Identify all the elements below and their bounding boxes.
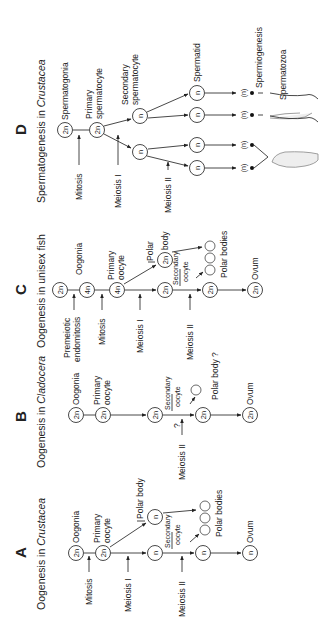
spermatid-n: (n) [240, 89, 248, 98]
ploidy-label: n [136, 114, 145, 118]
panel-title-a: Oogenesis in Crustacea [35, 498, 47, 610]
ploidy-label: 2n [199, 411, 208, 419]
arrow [148, 145, 188, 149]
process-meiosis-1: Meiosis I [113, 174, 123, 208]
ploidy-label: 2n [161, 256, 170, 264]
label-spermatid: Spermatid [192, 43, 202, 82]
process-premeiotic: Premeiotic [62, 317, 72, 358]
label-primary: Primary [92, 375, 102, 405]
ploidy-label: n [136, 150, 145, 154]
label-polar-bodies: Polar bodies [219, 231, 229, 278]
process-meiosis-1: Meiosis I [135, 319, 145, 353]
label-spermatocyte: spermatocyte [94, 68, 104, 119]
polar-body-1 [200, 525, 210, 535]
panel-title-b: Oogenesis in Cladocera [35, 356, 47, 468]
spermatid-n: (n) [240, 141, 248, 150]
arrow [196, 272, 203, 278]
panel-letter-b: B [12, 411, 29, 422]
ploidy-label: 2n [72, 549, 81, 557]
process-meiosis-2: Meiosis II [177, 444, 187, 480]
sperm-dot [250, 143, 254, 147]
arrow [172, 247, 202, 252]
label-oocyte: oocyte [174, 524, 182, 545]
panel-b: B Oogenesis in Cladocera 2n Oogonia 2n P… [12, 352, 258, 480]
panel-letter-a: A [12, 547, 29, 558]
label-spermatocyte: spermatocyte [130, 54, 140, 105]
polar-body-1 [205, 265, 215, 275]
arrow [124, 265, 156, 284]
arrow [147, 94, 188, 112]
label-oocyte: oocyte [116, 255, 126, 280]
ploidy-label: n [199, 551, 208, 555]
spermatozoon-icon [272, 152, 318, 168]
ploidy-label: n [193, 143, 202, 147]
label-oocyte: oocyte [102, 380, 112, 405]
sperm-dot [250, 91, 254, 95]
label-polar: Polar [145, 241, 155, 261]
panel-title-d: Spermatogenesis in Crustacea [35, 59, 47, 203]
ploidy-label: 2n [151, 411, 160, 419]
ploidy-label: 2n [251, 286, 260, 294]
sperm-dot [250, 113, 254, 117]
process-meiosis-2: Meiosis II [177, 581, 187, 617]
process-endomitosis: endomitosis [72, 317, 82, 362]
label-question: ? [172, 423, 182, 428]
arrow [147, 156, 188, 166]
ploidy-label: n [246, 551, 255, 555]
panel-letter-c: C [12, 284, 29, 295]
ploidy-label: n [151, 551, 160, 555]
process-meiosis-2: Meiosis II [163, 177, 173, 213]
polar-body [191, 385, 201, 395]
arrow [104, 119, 131, 126]
process-mitosis: Mitosis [74, 174, 84, 200]
ploidy-label: 2n [93, 126, 102, 134]
ploidy-label: n [193, 113, 202, 117]
process-meiosis-2: Meiosis II [185, 324, 195, 360]
ploidy-label: 2n [56, 286, 65, 294]
polar-body-2 [200, 513, 210, 523]
label-secondary: Secondary [120, 64, 130, 105]
arrow [190, 534, 199, 542]
ploidy-label: 2n [161, 286, 170, 294]
sperm-dot [250, 166, 254, 170]
panel-title-c: Oogenesis in unisex fish [35, 234, 47, 348]
label-polar-body: Polar body [135, 478, 145, 519]
label-primary: Primary [84, 89, 94, 119]
figure-canvas: A Oogenesis in Crustacea 2n Oogonia Mito… [0, 0, 330, 640]
label-ovum: Ovum [245, 382, 255, 405]
arrow [163, 510, 196, 513]
arrow [104, 134, 131, 148]
process-mitosis: Mitosis [97, 319, 107, 345]
ploidy-label: 4n [113, 286, 122, 294]
label-polar-body-question: Polar body ? [210, 352, 220, 400]
label-secondary: Secondary [164, 514, 172, 548]
label-polar-bodies: Polar bodies [214, 490, 224, 537]
ploidy-label: 2n [72, 411, 81, 419]
label-oocyte: oocyte [102, 518, 112, 543]
polar-body-3 [205, 241, 215, 251]
label-oocyte: oocyte [174, 386, 182, 407]
spermatid-n: (n) [240, 164, 248, 173]
ploidy-label: 4n [83, 286, 92, 294]
label-ovum: Ovum [245, 520, 255, 543]
ploidy-label: n [193, 91, 202, 95]
label-secondary: Secondary [172, 251, 180, 285]
panel-a: A Oogenesis in Crustacea 2n Oogonia Mito… [12, 478, 258, 617]
spermatid-n: (n) [240, 111, 248, 120]
label-spermatozoa: Spermatozoa [278, 49, 288, 100]
ploidy-label: n [193, 166, 202, 170]
label-ovum: Ovum [250, 257, 260, 280]
label-spermatogonia: Spermatogonia [60, 62, 70, 120]
label-secondary: Secondary [164, 376, 172, 410]
label-oogonia: Oogonia [74, 243, 84, 275]
label-oogonia: Oogonia [71, 373, 81, 405]
panel-letter-d: D [12, 124, 29, 135]
arrow [148, 115, 188, 118]
ploidy-label: 2n [61, 126, 70, 134]
polar-body-2 [205, 253, 215, 263]
panel-c: C Oogenesis in unisex fish 2n Premeiotic… [12, 231, 263, 362]
bracket [254, 145, 268, 168]
arrow [110, 523, 146, 547]
panel-d: D Spermatogenesis in Crustacea 2n Sperma… [12, 27, 318, 213]
label-primary: Primary [92, 513, 102, 543]
